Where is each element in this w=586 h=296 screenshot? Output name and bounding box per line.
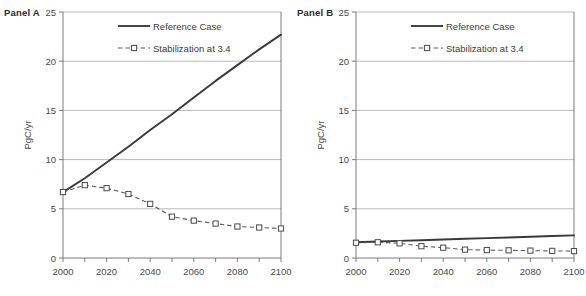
x-tick-label: 2040	[433, 266, 454, 277]
figure-two-panel-emissions: Panel A 05101520252000202020402060208021…	[0, 0, 586, 296]
x-tick-label: 2060	[183, 266, 204, 277]
panel-b: Panel B 05101520252000202020402060208021…	[293, 0, 586, 296]
data-point-marker	[148, 201, 153, 206]
data-point-marker	[126, 191, 131, 196]
y-tick-label: 5	[51, 203, 56, 214]
y-axis-label: PgC/yr	[315, 120, 326, 149]
data-point-marker	[550, 248, 555, 253]
legend-label-reference: Reference Case	[446, 21, 515, 32]
panel-b-chart: 0510152025200020202040206020802100PgC/yr…	[293, 0, 586, 296]
y-tick-label: 10	[45, 154, 56, 165]
x-tick-label: 2040	[140, 266, 161, 277]
series-stabilization	[63, 185, 281, 228]
data-point-marker	[419, 244, 424, 249]
data-point-marker	[213, 221, 218, 226]
data-point-marker	[528, 248, 533, 253]
data-point-marker	[441, 245, 446, 250]
x-tick-label: 2000	[52, 266, 73, 277]
y-tick-label: 25	[45, 7, 56, 18]
data-point-marker	[506, 248, 511, 253]
y-tick-label: 25	[338, 7, 349, 18]
y-tick-label: 0	[51, 253, 56, 264]
data-point-marker	[60, 189, 65, 194]
y-tick-label: 15	[45, 105, 56, 116]
data-point-marker	[82, 183, 87, 188]
data-point-marker	[169, 214, 174, 219]
data-point-marker	[571, 249, 576, 254]
legend-marker-square	[424, 45, 429, 50]
panel-a: Panel A 05101520252000202020402060208021…	[0, 0, 293, 296]
series-reference-case	[356, 235, 574, 242]
legend-label-stabilization: Stabilization at 3.4	[446, 43, 524, 54]
data-point-marker	[104, 186, 109, 191]
y-tick-label: 0	[344, 253, 349, 264]
data-point-marker	[375, 240, 380, 245]
y-tick-label: 20	[45, 56, 56, 67]
x-tick-label: 2000	[345, 266, 366, 277]
x-tick-label: 2020	[389, 266, 410, 277]
legend-label-stabilization: Stabilization at 3.4	[153, 43, 231, 54]
data-point-marker	[235, 224, 240, 229]
x-tick-label: 2020	[96, 266, 117, 277]
data-point-marker	[257, 225, 262, 230]
legend-label-reference: Reference Case	[153, 21, 222, 32]
data-point-marker	[462, 247, 467, 252]
y-tick-label: 15	[338, 105, 349, 116]
data-point-marker	[484, 248, 489, 253]
x-tick-label: 2060	[476, 266, 497, 277]
data-point-marker	[191, 218, 196, 223]
data-point-marker	[353, 240, 358, 245]
x-tick-label: 2100	[270, 266, 291, 277]
y-tick-label: 20	[338, 56, 349, 67]
panel-a-title: Panel A	[4, 7, 40, 18]
series-reference-case	[63, 35, 281, 192]
data-point-marker	[397, 241, 402, 246]
panel-b-title: Panel B	[297, 7, 333, 18]
y-tick-label: 5	[344, 203, 349, 214]
x-tick-label: 2080	[227, 266, 248, 277]
y-axis-label: PgC/yr	[22, 120, 33, 149]
y-tick-label: 10	[338, 154, 349, 165]
x-tick-label: 2080	[520, 266, 541, 277]
x-tick-label: 2100	[563, 266, 584, 277]
data-point-marker	[278, 226, 283, 231]
legend-marker-square	[131, 45, 136, 50]
panel-a-chart: 0510152025200020202040206020802100PgC/yr…	[0, 0, 293, 296]
